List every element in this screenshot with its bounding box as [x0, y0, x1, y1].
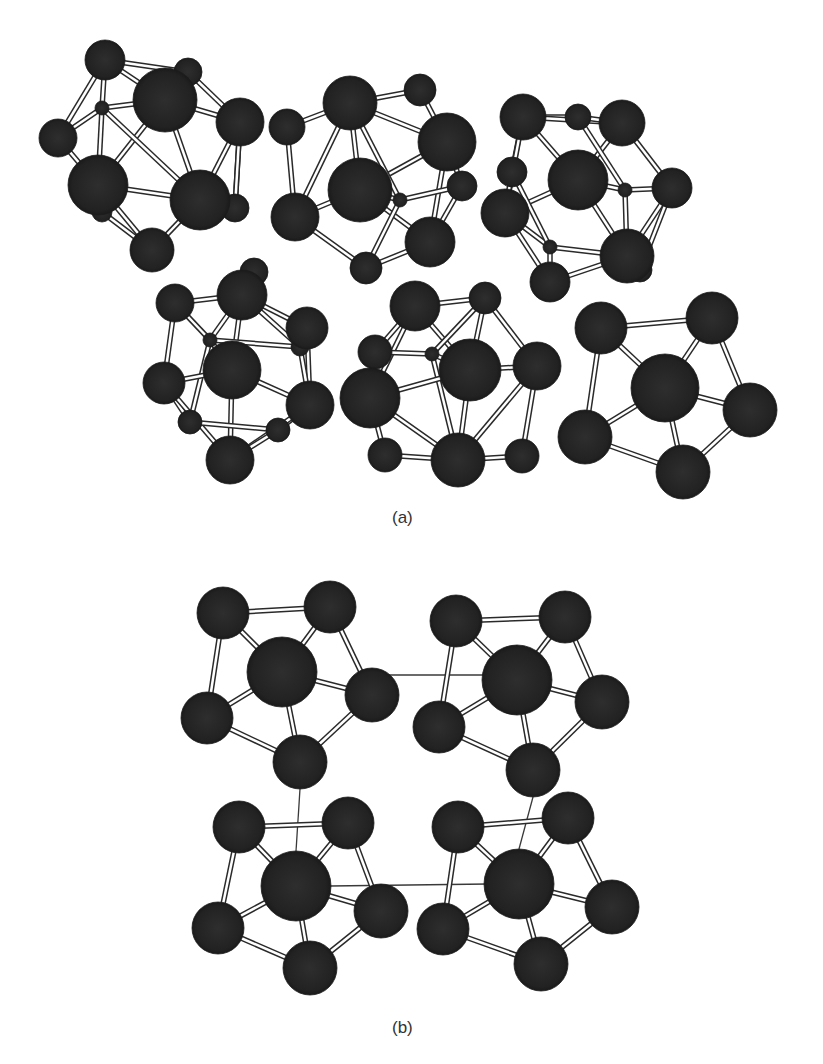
atom — [85, 40, 125, 80]
atom — [417, 903, 469, 955]
cluster — [413, 591, 629, 797]
atom — [192, 902, 244, 954]
atom — [405, 217, 455, 267]
atom — [652, 168, 692, 208]
atom — [565, 104, 591, 130]
atom — [39, 119, 77, 157]
atom — [482, 645, 552, 715]
atom — [156, 284, 194, 322]
atom — [618, 183, 632, 197]
atom — [213, 801, 265, 853]
atom — [469, 282, 501, 314]
atom — [425, 347, 439, 361]
atom — [542, 792, 594, 844]
cluster — [481, 94, 692, 302]
atom — [261, 851, 331, 921]
atom — [286, 381, 334, 429]
atom — [585, 880, 639, 934]
cluster — [269, 74, 477, 284]
atom — [273, 735, 327, 789]
atom — [340, 368, 400, 428]
atom — [393, 193, 407, 207]
atom — [203, 333, 217, 347]
atom — [631, 354, 699, 422]
atom — [600, 229, 654, 283]
atom — [170, 170, 230, 230]
atom — [178, 410, 202, 434]
atom — [548, 150, 608, 210]
atom — [575, 302, 627, 354]
atom — [431, 433, 485, 487]
atom — [266, 418, 290, 442]
cluster — [143, 258, 334, 484]
atom — [247, 637, 317, 707]
cluster — [39, 40, 264, 272]
atom — [286, 307, 328, 349]
atom — [447, 171, 477, 201]
panel-b-label: (b) — [392, 1018, 413, 1038]
atom — [328, 158, 392, 222]
atom — [506, 743, 560, 797]
atom — [217, 270, 267, 320]
cluster — [417, 792, 639, 991]
cluster — [181, 581, 399, 789]
atom — [283, 941, 337, 995]
atom — [304, 581, 356, 633]
atom — [350, 252, 382, 284]
atom — [575, 675, 629, 729]
atom — [143, 362, 185, 404]
atom — [430, 595, 482, 647]
cluster — [340, 281, 561, 487]
link-bond — [296, 789, 300, 851]
atom — [404, 74, 436, 106]
panel-a-clusters — [39, 40, 777, 499]
atom — [95, 101, 109, 115]
atom — [345, 668, 399, 722]
atom — [68, 155, 128, 215]
atom — [133, 68, 197, 132]
atom — [418, 113, 476, 171]
panel-b-clusters — [181, 581, 639, 995]
atom — [513, 342, 561, 390]
atom — [505, 439, 539, 473]
atom — [203, 341, 261, 399]
atom — [271, 193, 319, 241]
cluster — [558, 292, 777, 499]
atom — [323, 76, 377, 130]
atom — [558, 410, 612, 464]
atom — [368, 438, 402, 472]
link-bond — [330, 884, 488, 886]
atom — [481, 189, 529, 237]
atom — [390, 281, 440, 331]
atom — [439, 339, 501, 401]
figure-canvas — [0, 0, 823, 1064]
atom — [539, 591, 591, 643]
atom — [497, 157, 527, 187]
atom — [413, 701, 465, 753]
atom — [656, 445, 710, 499]
atom — [206, 436, 254, 484]
atom — [530, 262, 570, 302]
panel-a-label: (a) — [392, 508, 413, 528]
atom — [432, 801, 484, 853]
atom — [130, 228, 174, 272]
atom — [514, 937, 568, 991]
atom — [500, 94, 546, 140]
cluster — [192, 797, 408, 995]
atom — [543, 240, 557, 254]
atom — [358, 335, 392, 369]
atom — [269, 109, 305, 145]
atom — [484, 849, 554, 919]
atom — [216, 98, 264, 146]
atom — [354, 884, 408, 938]
atom — [197, 587, 249, 639]
atom — [723, 383, 777, 437]
atom — [322, 797, 374, 849]
atom — [686, 292, 738, 344]
atom — [181, 692, 233, 744]
atom — [599, 100, 645, 146]
